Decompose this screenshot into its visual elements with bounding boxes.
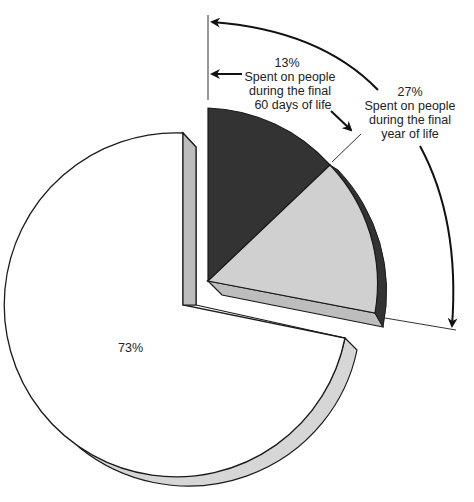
slice-27-group — [208, 108, 387, 327]
annotation-27-percent: 27% Spent on people during the final yea… — [364, 85, 455, 141]
annotation-27-line1: Spent on people — [364, 99, 455, 113]
slice-73-label: 73% — [118, 341, 143, 355]
annotation-27-pct: 27% — [397, 85, 422, 99]
annotation-13-percent: 13% Spent on people during the final 60 … — [244, 56, 335, 112]
pie-chart: 73% 13% Spent on people during the final… — [0, 0, 474, 502]
annotation-13-pct: 13% — [274, 56, 299, 70]
annotation-13-line2: during the final — [249, 84, 331, 98]
arrow-13-slice-icon — [331, 111, 351, 130]
arrow-27-down-icon — [420, 146, 453, 326]
annotation-27-line2: during the final — [369, 113, 451, 127]
guide-line-13 — [332, 134, 361, 162]
annotation-13-line1: Spent on people — [244, 70, 335, 84]
guide-line-27 — [385, 318, 456, 330]
annotation-13-line3: 60 days of life — [254, 98, 331, 112]
annotation-27-line3: year of life — [381, 127, 439, 141]
